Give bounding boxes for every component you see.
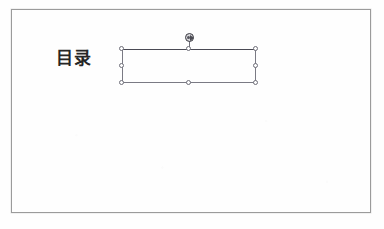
- resize-handle-top-left[interactable]: [119, 46, 124, 51]
- resize-handle-bottom-left[interactable]: [119, 80, 124, 85]
- resize-handle-middle-left[interactable]: [119, 63, 124, 68]
- mouse-cursor-icon: [190, 35, 194, 41]
- resize-handle-middle-right[interactable]: [253, 63, 258, 68]
- selected-text-placeholder[interactable]: [122, 49, 256, 83]
- slide-canvas[interactable]: 目录: [11, 9, 371, 213]
- resize-handle-bottom-middle[interactable]: [186, 80, 191, 85]
- resize-handle-top-middle[interactable]: [186, 46, 191, 51]
- shape-outline: [122, 49, 256, 83]
- slide-title-text[interactable]: 目录: [56, 46, 116, 70]
- slide-editor[interactable]: 目录: [0, 0, 384, 229]
- resize-handle-top-right[interactable]: [253, 46, 258, 51]
- resize-handle-bottom-right[interactable]: [253, 80, 258, 85]
